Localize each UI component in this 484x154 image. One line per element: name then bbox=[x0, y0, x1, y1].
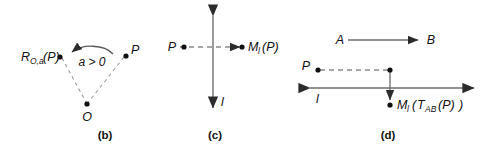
panel-c-image-label-sub: l bbox=[258, 46, 261, 56]
panel-b-image-label-arg: (P) bbox=[43, 50, 60, 64]
panel-c-caption: (c) bbox=[208, 129, 222, 141]
panel-d-label-p: P bbox=[302, 59, 311, 73]
panel-d-caption: (d) bbox=[381, 129, 396, 141]
panel-d-translation-label-arg: (P) bbox=[438, 98, 455, 112]
panel-d-translation-label-sub: AB bbox=[424, 104, 437, 114]
panel-b-point-p-dot bbox=[123, 53, 128, 58]
panel-d-image-label-sub: l bbox=[407, 104, 410, 114]
panel-c-reflection: P M l (P) l (c) bbox=[168, 16, 279, 141]
panel-c-image-label-arg: (P) bbox=[262, 40, 279, 54]
panel-d-label-axis: l bbox=[316, 92, 320, 106]
panel-d-point-image-dot bbox=[387, 102, 392, 107]
panel-b-label-angle: a > 0 bbox=[78, 55, 105, 69]
panel-b-image-label-base: R bbox=[21, 50, 30, 64]
panel-c-point-p-dot bbox=[181, 44, 186, 49]
panel-d-label-a: A bbox=[335, 33, 344, 47]
panel-c-label-axis: l bbox=[221, 95, 225, 109]
figure-container: R O,a (P) P O a > 0 (b) P M l bbox=[0, 0, 484, 154]
figure-canvas: R O,a (P) P O a > 0 (b) P M l bbox=[0, 0, 484, 154]
panel-b-label-o: O bbox=[82, 110, 92, 124]
panel-c-point-image-dot bbox=[239, 44, 244, 49]
panel-b-caption: (b) bbox=[98, 129, 113, 141]
panel-c-label-p: P bbox=[168, 40, 177, 54]
panel-d-glide-reflection: A B P l M l ( T AB (P) ) (d) bbox=[302, 33, 474, 141]
panel-d-point-p-dot bbox=[315, 67, 320, 72]
panel-d-label-b: B bbox=[427, 33, 435, 47]
panel-b-label-p: P bbox=[131, 43, 140, 57]
panel-d-point-translated-dot bbox=[387, 67, 392, 72]
panel-b-image-label-sub: O,a bbox=[30, 56, 44, 66]
panel-b-point-o-dot bbox=[84, 101, 89, 106]
panel-b-rotation: R O,a (P) P O a > 0 (b) bbox=[21, 43, 140, 141]
panel-b-rotation-arc bbox=[72, 46, 113, 54]
panel-d-image-close-paren: ) bbox=[457, 98, 463, 112]
